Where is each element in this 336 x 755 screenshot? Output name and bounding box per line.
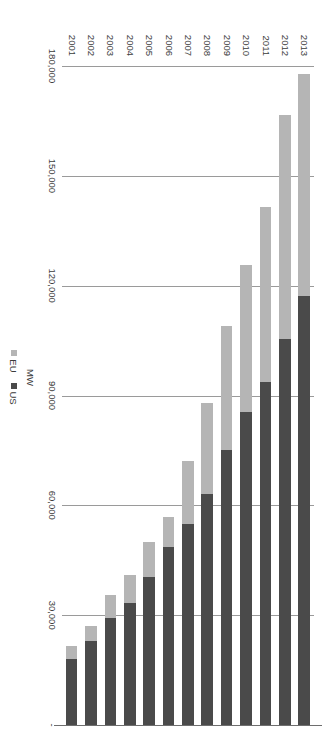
bar-row [120,66,139,725]
bar-segment-eu [163,517,175,547]
bar-row [81,66,100,725]
bar-row [159,66,178,725]
plot-area [62,66,314,725]
legend-label: EU [8,359,19,372]
stacked-bar-chart: 2001200220032004200520062007200820092010… [0,0,336,755]
legend-swatch-icon [11,383,17,389]
rotated-chart-canvas: 2001200220032004200520062007200820092010… [0,0,336,755]
category-tick-label: 2013 [299,2,309,56]
bar-row [101,66,120,725]
bar-segment-us [163,547,175,725]
bar-segment-eu [124,575,136,603]
bar-segment-us [260,382,272,725]
value-tick-label: 150,000 [47,159,58,193]
bar-segment-eu [85,626,97,641]
bar-segment-eu [298,74,310,295]
value-tick-label: 180,000 [47,49,58,83]
category-tick-label: 2008 [202,2,212,56]
bar-segment-eu [279,115,291,339]
bar-segment-us [85,641,97,725]
bar-segment-eu [221,326,233,450]
bar-segment-us [201,494,213,725]
category-tick-label: 2001 [67,2,77,56]
bar-segment-eu [143,542,155,578]
bar-segment-us [240,412,252,725]
bar-row [275,66,294,725]
bar-segment-us [279,339,291,725]
legend-label: US [8,392,19,405]
category-tick-label: 2007 [183,2,193,56]
value-tick-label: - [47,723,58,726]
bar-row [62,66,81,725]
category-tick-label: 2002 [86,2,96,56]
bar-segment-eu [201,403,213,495]
bar-segment-eu [66,646,78,659]
value-tick-label: 60,000 [47,491,58,520]
legend-item: US [8,383,20,405]
value-axis-line [54,725,322,726]
bar-row [295,66,314,725]
bar-segment-eu [240,265,252,412]
bar-row [236,66,255,725]
bar-segment-us [105,618,117,725]
category-tick-label: 2006 [164,2,174,56]
category-tick-label: 2009 [222,2,232,56]
chart-image-frame: 2001200220032004200520062007200820092010… [0,0,336,755]
bar-segment-us [221,450,233,725]
category-tick-label: 2012 [280,2,290,56]
legend-swatch-icon [11,350,17,356]
bar-segment-eu [105,595,117,618]
value-axis-title: MW [25,0,36,755]
category-tick-label: 2003 [105,2,115,56]
bar-row [217,66,236,725]
bar-row [256,66,275,725]
category-tick-label: 2010 [241,2,251,56]
value-tick-label: 90,000 [47,381,58,410]
value-tick-label: 30,000 [47,601,58,630]
legend-item: EU [8,350,20,372]
bar-segment-eu [182,461,194,525]
bar-row [178,66,197,725]
category-tick-label: 2011 [261,2,271,56]
chart-legend: EUUS [8,0,20,755]
bar-segment-us [143,577,155,725]
category-tick-label: 2005 [144,2,154,56]
category-axis-labels: 2001200220032004200520062007200820092010… [62,0,314,62]
bar-segment-us [124,603,136,725]
bar-row [140,66,159,725]
bar-segment-eu [260,207,272,382]
bar-segment-us [182,524,194,725]
bar-row [198,66,217,725]
category-tick-label: 2004 [125,2,135,56]
bar-segment-us [66,659,78,725]
bar-segment-us [298,296,310,725]
value-tick-label: 120,000 [47,268,58,302]
